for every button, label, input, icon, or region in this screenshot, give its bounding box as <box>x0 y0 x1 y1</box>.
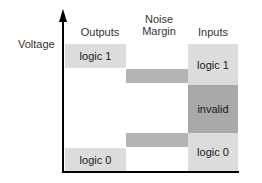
y-axis-arrow-icon <box>59 9 67 22</box>
axes <box>0 0 262 183</box>
